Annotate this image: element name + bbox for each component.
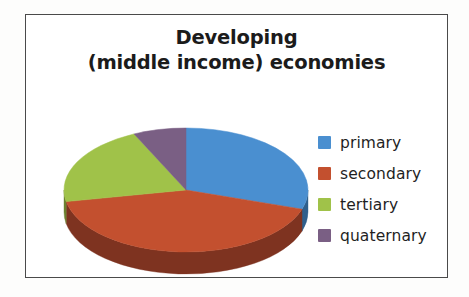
legend-item-tertiary[interactable]: tertiary [318,189,448,220]
legend-label-quaternary: quaternary [340,227,427,245]
pie-svg [26,101,326,276]
legend-item-quaternary[interactable]: quaternary [318,220,448,251]
legend-swatch-primary [318,136,331,149]
legend-label-secondary: secondary [340,165,421,183]
chart-title-line-1: Developing [26,25,447,50]
legend-swatch-secondary [318,167,331,180]
legend-swatch-quaternary [318,229,331,242]
chart-title-line-2: (middle income) economies [26,50,447,75]
pie-chart [26,101,326,276]
chart-frame: Developing (middle income) economies pri… [25,14,448,278]
figure-root: Developing (middle income) economies pri… [0,0,469,297]
legend-swatch-tertiary [318,198,331,211]
legend-label-primary: primary [340,134,401,152]
legend-item-secondary[interactable]: secondary [318,158,448,189]
chart-title: Developing (middle income) economies [26,25,447,75]
chart-legend: primary secondary tertiary quaternary [318,127,448,251]
legend-item-primary[interactable]: primary [318,127,448,158]
legend-label-tertiary: tertiary [340,196,398,214]
